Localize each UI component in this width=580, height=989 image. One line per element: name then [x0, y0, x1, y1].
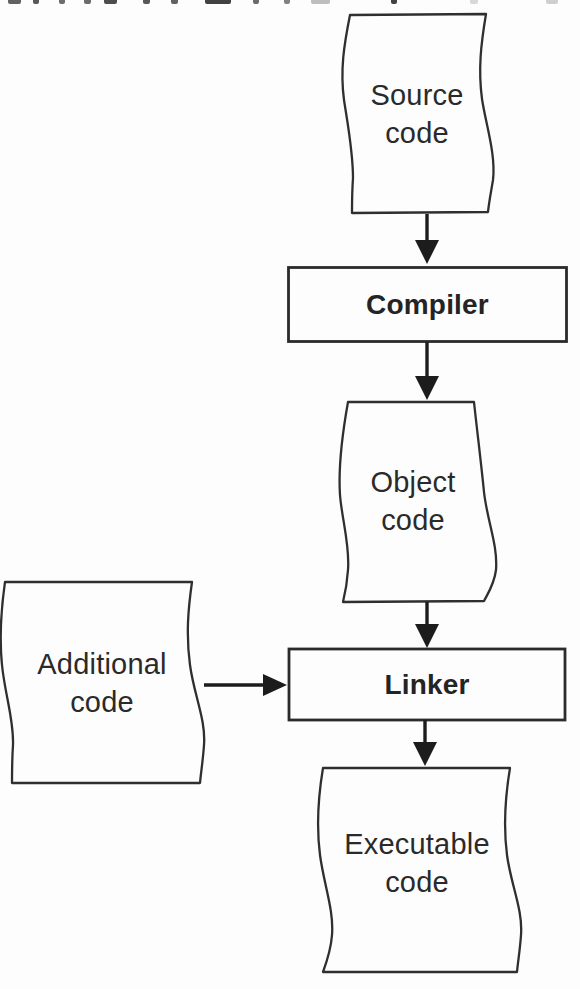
node-compiler: Compiler [288, 267, 567, 342]
arrowhead-down-icon [415, 376, 439, 400]
arrow-source-to-compiler [415, 214, 439, 264]
arrow-object-to-linker [415, 602, 439, 648]
node-label-line: code [381, 501, 445, 539]
node-label-line: Object [370, 463, 455, 501]
compilation-flow-diagram: Source code Compiler Object code Linker … [0, 0, 580, 989]
node-label-line: Source [370, 76, 463, 114]
node-label-line: Linker [384, 666, 469, 704]
node-executable-code: Executable code [322, 768, 512, 958]
node-label-line: code [385, 114, 449, 152]
node-object-code: Object code [340, 402, 486, 600]
node-additional-code: Additional code [2, 582, 202, 783]
node-label-line: Compiler [366, 286, 489, 324]
arrowhead-down-icon [413, 742, 437, 766]
arrowhead-down-icon [415, 624, 439, 648]
node-linker: Linker [289, 649, 565, 720]
node-label-line: Additional [37, 645, 166, 683]
node-label-line: code [70, 683, 134, 721]
arrow-linker-to-executable [413, 720, 437, 766]
arrow-additional-to-linker [204, 674, 287, 696]
node-source-code: Source code [346, 16, 488, 212]
arrow-compiler-to-object [415, 342, 439, 400]
node-label-line: Executable [344, 825, 490, 863]
arrowhead-down-icon [415, 240, 439, 264]
node-label-line: code [385, 863, 449, 901]
arrowhead-right-icon [263, 674, 287, 696]
